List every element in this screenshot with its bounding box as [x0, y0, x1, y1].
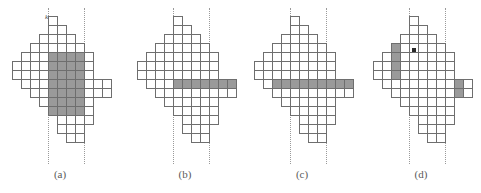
panel-c: (c) [242, 0, 362, 193]
cell-marker [412, 48, 416, 52]
panel-d: (d) [361, 0, 481, 193]
grid-cell [200, 133, 210, 143]
panel-caption: (a) [0, 168, 120, 180]
panel-b: (b) [125, 0, 245, 193]
grid-cell [326, 115, 336, 125]
panel-caption: (c) [242, 168, 362, 180]
panel-caption: (d) [361, 168, 481, 180]
panel-caption: (b) [125, 168, 245, 180]
grid-cell [445, 115, 455, 125]
shape-grid [242, 0, 362, 168]
grid-cell [227, 88, 237, 98]
grid-cell [75, 133, 85, 143]
grid-cell [344, 88, 354, 98]
panel-a: kh(a) [0, 0, 120, 193]
grid-cell [317, 133, 327, 143]
grid-cell [463, 88, 473, 98]
figure-panels: kh(a)(b)(c)(d) [0, 0, 481, 193]
shape-grid [361, 0, 481, 168]
grid-cell [84, 115, 94, 125]
grid-cell [209, 115, 219, 125]
grid-cell [102, 88, 112, 98]
shape-grid [125, 0, 245, 168]
grid-cell [436, 133, 446, 143]
shape-grid: kh [0, 0, 120, 168]
